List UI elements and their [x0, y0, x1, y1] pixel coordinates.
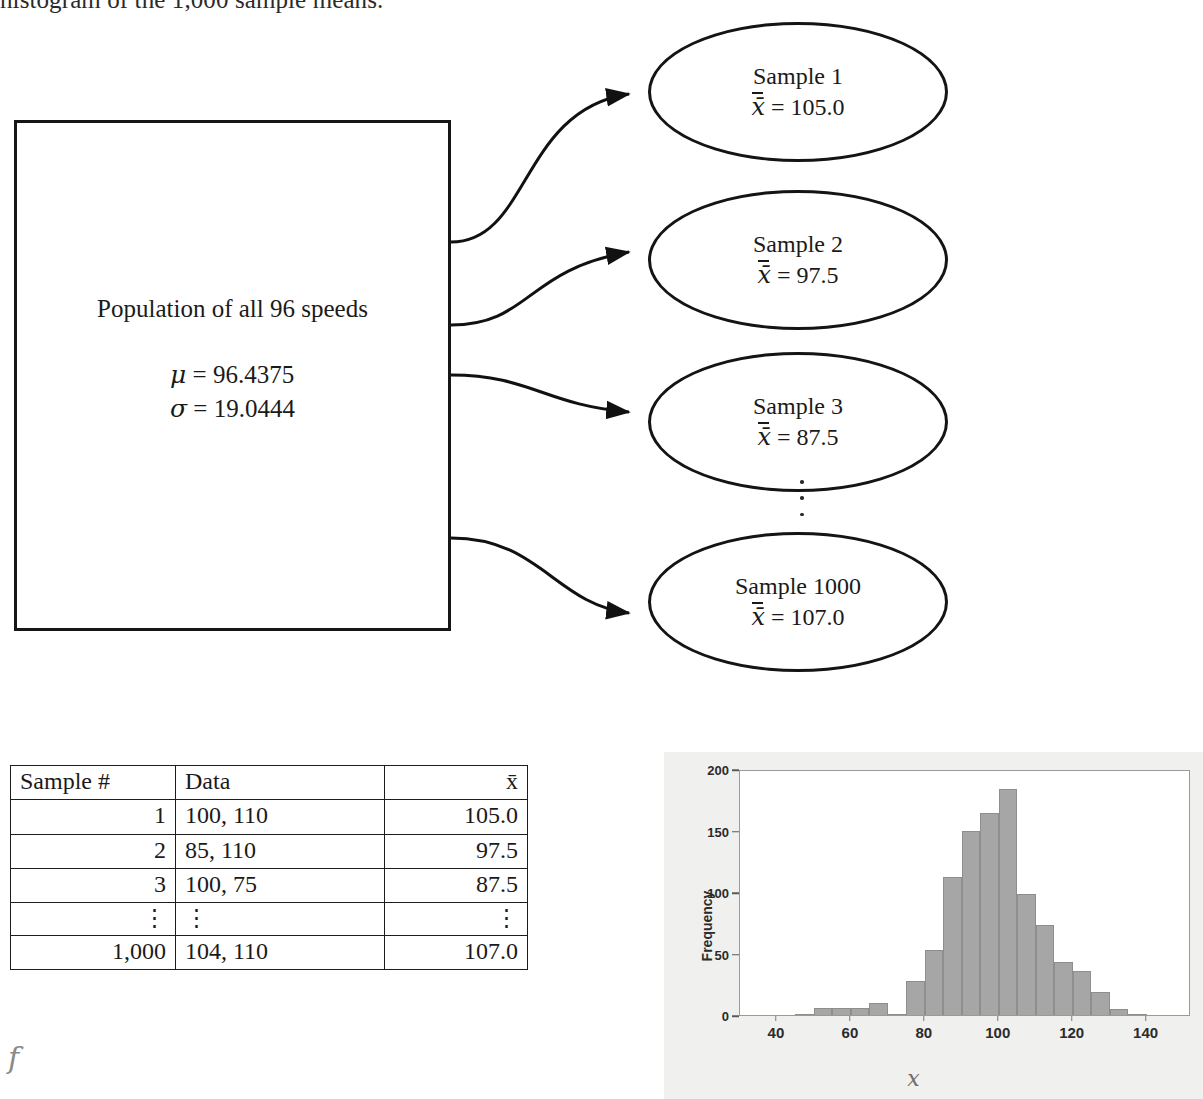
sample-2-mean-value: = 97.5 — [777, 262, 839, 288]
histogram-x-axis-label-clipped: x̄ — [664, 1074, 1203, 1099]
sample-1-name: Sample 1 — [753, 61, 843, 92]
histogram-bar — [814, 1008, 832, 1015]
sample-1000-mean: x̄ = 107.0 — [751, 602, 844, 633]
cell-data: 100, 75 — [176, 868, 385, 902]
sample-ellipse-1: Sample 1 x̄ = 105.0 — [648, 22, 948, 162]
histogram-x-axis-label: x̄ — [907, 1074, 919, 1091]
histogram-y-tick-mark — [732, 1015, 739, 1017]
sample-2-name: Sample 2 — [753, 229, 843, 260]
histogram-x-tick-label: 80 — [915, 1024, 932, 1041]
header-xbar: x̄ — [385, 766, 528, 800]
histogram-y-tick-label: 50 — [715, 947, 729, 962]
histogram-x-tick-label: 100 — [985, 1024, 1010, 1041]
table-row: 1 100, 110 105.0 — [11, 800, 528, 834]
histogram-bar — [980, 813, 998, 1015]
histogram-panel: Frequency 050100150200 406080100120140 x… — [664, 752, 1203, 1099]
header-data: Data — [176, 766, 385, 800]
mu-symbol: μ — [170, 360, 186, 389]
histogram-x-tick-mark — [849, 1016, 851, 1021]
histogram-bar — [851, 1008, 869, 1015]
diagram-canvas: histogram of the 1,000 sample means. Pop… — [0, 0, 1203, 1099]
histogram-x-tick-label: 140 — [1133, 1024, 1158, 1041]
histogram-x-tick-mark — [1145, 1016, 1147, 1021]
histogram-bar — [962, 831, 980, 1016]
histogram-y-tick-label: 100 — [707, 886, 729, 901]
arrow-to-sample-3 — [451, 375, 629, 412]
sample-ellipse-1000: Sample 1000 x̄ = 107.0 — [648, 532, 948, 672]
cell-mean: 87.5 — [385, 868, 528, 902]
table-header-row: Sample # Data x̄ — [11, 766, 528, 800]
xbar-symbol: x̄ — [757, 261, 771, 289]
sample-2-mean: x̄ = 97.5 — [757, 260, 838, 291]
sigma-symbol: σ — [170, 394, 187, 423]
sigma-value: = 19.0444 — [193, 395, 295, 422]
xbar-symbol: x̄ — [751, 603, 765, 631]
histogram-bar — [1017, 894, 1035, 1015]
histogram-y-tick-label: 200 — [707, 763, 729, 778]
sample-ellipse-2: Sample 2 x̄ = 97.5 — [648, 190, 948, 330]
cell-sample-number: ⋮ — [11, 903, 176, 936]
histogram-x-tick-mark — [923, 1016, 925, 1021]
cell-sample-number: 1,000 — [11, 936, 176, 970]
samples-table: Sample # Data x̄ 1 100, 110 105.0 2 85, … — [10, 765, 528, 970]
histogram-bar — [999, 789, 1017, 1015]
population-sigma: σ = 19.0444 — [170, 392, 295, 426]
histogram-bars — [740, 771, 1189, 1015]
histogram-bar — [906, 981, 924, 1015]
table-row: 2 85, 110 97.5 — [11, 834, 528, 868]
cell-mean: 105.0 — [385, 800, 528, 834]
cell-mean: 107.0 — [385, 936, 528, 970]
histogram-y-tick-mark — [732, 769, 739, 771]
page-heading-clipped: histogram of the 1,000 sample means. — [0, 0, 620, 20]
histogram-x-tick-label: 120 — [1059, 1024, 1084, 1041]
histogram-y-tick-mark — [732, 954, 739, 956]
cell-data: 85, 110 — [176, 834, 385, 868]
page-heading-text: histogram of the 1,000 sample means. — [0, 0, 620, 14]
histogram-bar — [943, 877, 961, 1015]
sample-1-mean-value: = 105.0 — [771, 94, 845, 120]
sample-1-mean: x̄ = 105.0 — [751, 92, 844, 123]
arrow-to-sample-1 — [451, 94, 629, 242]
histogram-x-tick-label: 60 — [842, 1024, 859, 1041]
cell-mean: ⋮ — [385, 903, 528, 936]
histogram-bar — [888, 1014, 906, 1016]
population-stats: μ = 96.4375 σ = 19.0444 — [170, 358, 295, 426]
table-row: 1,000 104, 110 107.0 — [11, 936, 528, 970]
xbar-symbol: x̄ — [751, 93, 765, 121]
cell-sample-number: 1 — [11, 800, 176, 834]
histogram-y-tick-mark — [732, 831, 739, 833]
cell-data: ⋮ — [176, 903, 385, 936]
sample-1000-mean-value: = 107.0 — [771, 604, 845, 630]
arrow-to-sample-2 — [451, 252, 629, 325]
cell-sample-number: 2 — [11, 834, 176, 868]
population-box: Population of all 96 speeds μ = 96.4375 … — [14, 120, 451, 631]
mu-value: = 96.4375 — [193, 361, 295, 388]
sample-3-mean: x̄ = 87.5 — [757, 422, 838, 453]
histogram-bar — [1054, 962, 1072, 1015]
histogram-bar — [1110, 1009, 1128, 1015]
histogram-bar — [832, 1008, 850, 1015]
histogram-bar — [1091, 992, 1109, 1015]
samples-table-body: 1 100, 110 105.0 2 85, 110 97.5 3 100, 7… — [11, 800, 528, 970]
sample-ellipse-3: Sample 3 x̄ = 87.5 — [648, 352, 948, 492]
histogram-y-axis-label: Frequency — [699, 890, 715, 961]
histogram-x-tick-mark — [1071, 1016, 1073, 1021]
population-title: Population of all 96 speeds — [17, 295, 448, 324]
histogram-bar — [1128, 1014, 1146, 1016]
cell-sample-number: 3 — [11, 868, 176, 902]
sample-1000-name: Sample 1000 — [735, 571, 861, 602]
histogram-bar — [795, 1014, 813, 1016]
histogram-y-tick-mark — [732, 892, 739, 894]
histogram-x-tick-label: 40 — [768, 1024, 785, 1041]
histogram-y-tick-label: 0 — [722, 1009, 729, 1024]
xbar-symbol: x̄ — [757, 423, 771, 451]
header-sample-number: Sample # — [11, 766, 176, 800]
histogram-bar — [869, 1003, 887, 1015]
stray-glyph: f — [8, 1040, 19, 1075]
cell-data: 100, 110 — [176, 800, 385, 834]
histogram-bar — [925, 950, 943, 1015]
cell-data: 104, 110 — [176, 936, 385, 970]
table-row-ellipsis: ⋮ ⋮ ⋮ — [11, 903, 528, 936]
histogram-bar — [1073, 971, 1091, 1015]
samples-table-wrap: Sample # Data x̄ 1 100, 110 105.0 2 85, … — [10, 765, 528, 970]
